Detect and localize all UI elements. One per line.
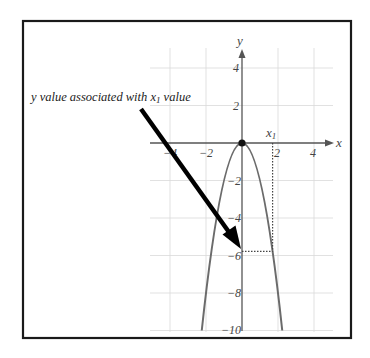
y-tick-label: −10 — [221, 323, 241, 337]
y-tick-label: 2 — [233, 99, 239, 113]
annotation-text: y value associated with x1 value — [29, 90, 191, 105]
x-axis-label: x — [335, 135, 342, 150]
parabola-chart: x y −4 −2 2 4 4 2 −2 −4 −6 −8 −10 x1 y v… — [0, 0, 370, 358]
y-tick-label: −6 — [227, 249, 241, 263]
x-tick-label: −2 — [199, 146, 213, 160]
y-axis-arrow-icon — [239, 49, 246, 58]
y-tick-label: −4 — [227, 211, 241, 225]
x-tick-label: 4 — [310, 146, 316, 160]
chart-frame — [23, 21, 351, 338]
y-tick-label: −8 — [227, 286, 241, 300]
x-tick-label: 2 — [274, 146, 280, 160]
x1-marker-label: x1 — [265, 125, 276, 141]
y-tick-label: −2 — [227, 174, 241, 188]
vertex-point — [238, 139, 245, 146]
annotation-arrow — [141, 109, 231, 235]
x-axis-arrow-icon — [325, 140, 334, 147]
y-tick-label: 4 — [233, 61, 239, 75]
y-axis-label: y — [235, 33, 243, 48]
